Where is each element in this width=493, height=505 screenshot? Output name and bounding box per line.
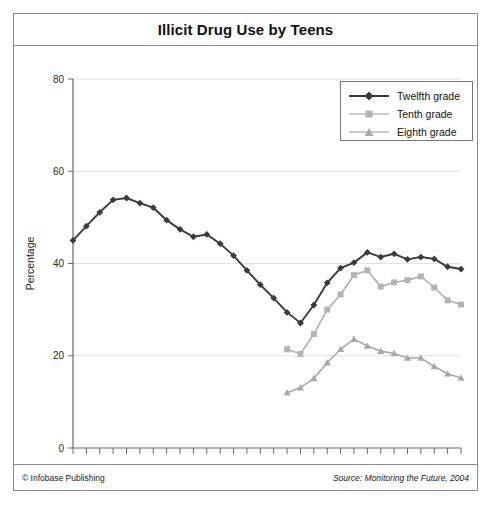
data-point-marker: [444, 370, 451, 376]
data-point-marker: [378, 284, 384, 290]
copyright-text: © Infobase Publishing: [22, 473, 105, 483]
page-title: Illicit Drug Use by Teens: [158, 21, 334, 38]
y-tick-label: 20: [53, 350, 65, 361]
chart-footer: © Infobase Publishing Source: Monitoring…: [14, 464, 477, 490]
legend-label-tenth-grade: Tenth grade: [397, 108, 452, 120]
source-text: Source: Monitoring the Future, 2004: [333, 473, 469, 483]
data-point-marker: [391, 279, 397, 285]
data-point-marker: [364, 267, 370, 273]
data-point-marker: [297, 351, 303, 357]
data-point-marker: [404, 256, 411, 263]
data-point-marker: [338, 291, 344, 297]
legend-swatch-triangle-icon: [348, 126, 390, 138]
chart-title-bar: Illicit Drug Use by Teens: [14, 14, 477, 46]
data-point-marker: [123, 195, 130, 202]
data-point-marker: [136, 200, 143, 207]
data-point-marker: [324, 307, 330, 313]
data-point-marker: [351, 272, 357, 278]
data-point-marker: [364, 342, 371, 348]
series-path: [73, 198, 461, 323]
data-point-marker: [431, 363, 438, 369]
series-eighth-grade: [283, 336, 464, 396]
data-point-marker: [377, 254, 384, 261]
chart-legend: Twelfth grade Tenth grade Eighth grade: [340, 81, 473, 141]
chart-figure: Illicit Drug Use by Teens 020406080Perce…: [13, 13, 478, 491]
legend-swatch-diamond-icon: [348, 90, 390, 102]
data-point-marker: [391, 250, 398, 257]
data-point-marker: [284, 346, 290, 352]
series-twelfth-grade: [70, 195, 465, 327]
data-point-marker: [417, 254, 424, 261]
y-tick-label: 60: [53, 166, 65, 177]
legend-label-eighth-grade: Eighth grade: [397, 126, 457, 138]
data-point-marker: [445, 297, 451, 303]
series-tenth-grade: [284, 267, 464, 356]
data-point-marker: [458, 266, 465, 273]
data-point-marker: [311, 331, 317, 337]
legend-swatch-square-icon: [348, 108, 390, 120]
y-tick-label: 0: [58, 443, 64, 454]
data-point-marker: [404, 277, 410, 283]
data-point-marker: [418, 273, 424, 279]
y-axis-title: Percentage: [24, 236, 36, 290]
data-point-marker: [431, 284, 437, 290]
legend-item-twelfth-grade: Twelfth grade: [341, 87, 472, 105]
y-tick-label: 80: [53, 74, 65, 85]
data-point-marker: [350, 336, 357, 342]
data-point-marker: [458, 302, 464, 308]
y-tick-label: 40: [53, 258, 65, 269]
legend-item-tenth-grade: Tenth grade: [341, 105, 472, 123]
series-path: [287, 270, 461, 353]
legend-label-twelfth-grade: Twelfth grade: [397, 90, 460, 102]
legend-item-eighth-grade: Eighth grade: [341, 123, 472, 141]
